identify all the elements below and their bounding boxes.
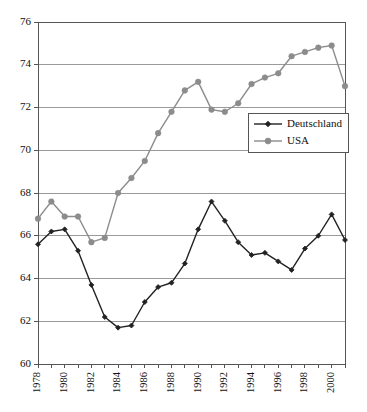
- data-point-marker: [262, 75, 268, 81]
- data-point-marker: [49, 199, 55, 205]
- y-axis-tick-label: 74: [20, 57, 32, 69]
- data-point-marker: [342, 83, 348, 89]
- data-point-marker: [169, 109, 175, 115]
- data-point-marker: [275, 71, 281, 77]
- y-axis-labels: 606264666870727476: [20, 15, 32, 369]
- line-chart: 606264666870727476 197819801982198419861…: [0, 0, 367, 412]
- series-group: [35, 43, 348, 330]
- x-axis-tick-label: 1986: [138, 372, 149, 393]
- data-point-marker: [196, 227, 201, 232]
- y-axis-tick-label: 64: [20, 271, 32, 283]
- y-axis-tick-label: 70: [20, 143, 32, 155]
- series-deutschland: [36, 199, 348, 330]
- x-axis-tick-label: 1984: [111, 371, 122, 393]
- x-axis-tick-label: 2000: [325, 372, 336, 393]
- x-axis-tick-label: 1992: [218, 372, 229, 393]
- data-point-marker: [155, 130, 161, 136]
- gridlines-group: [38, 22, 345, 321]
- data-point-marker: [89, 282, 94, 287]
- data-point-marker: [222, 109, 228, 115]
- data-point-marker: [62, 214, 68, 220]
- chart-legend: DeutschlandUSA: [248, 113, 348, 152]
- y-axis-tick-label: 68: [20, 186, 32, 198]
- x-axis-tick-label: 1980: [58, 372, 69, 393]
- data-point-marker: [89, 239, 95, 245]
- y-axis-tick-label: 62: [20, 314, 31, 326]
- x-axis-tick-label: 1988: [165, 372, 176, 393]
- x-axis-tick-label: 1998: [298, 372, 309, 393]
- data-point-marker: [35, 216, 41, 222]
- data-point-marker: [102, 235, 108, 241]
- data-point-marker: [316, 45, 322, 51]
- x-axis-tick-label: 1982: [85, 372, 96, 393]
- data-point-marker: [115, 190, 121, 196]
- data-point-marker: [182, 88, 188, 94]
- data-point-marker: [129, 175, 135, 181]
- y-axis-tick-label: 60: [20, 357, 32, 369]
- legend-label: Deutschland: [287, 117, 342, 129]
- x-axis-tick-label: 1978: [31, 372, 42, 393]
- y-axis-tick-label: 66: [20, 228, 32, 240]
- series-line: [38, 202, 345, 328]
- data-point-marker: [235, 100, 241, 106]
- data-point-marker: [343, 238, 348, 243]
- data-point-marker: [249, 81, 255, 87]
- x-axis-tick-label: 1994: [245, 371, 256, 393]
- legend-label: USA: [287, 134, 309, 146]
- data-point-marker: [265, 138, 271, 144]
- y-axis-tick-label: 72: [20, 100, 31, 112]
- data-point-marker: [75, 214, 81, 220]
- data-point-marker: [289, 53, 295, 59]
- data-point-marker: [209, 107, 215, 113]
- data-point-marker: [302, 49, 308, 55]
- data-point-marker: [329, 43, 335, 49]
- x-axis-labels: 1978198019821984198619881990199219941996…: [31, 371, 336, 393]
- x-axis-tick-label: 1996: [272, 372, 283, 393]
- y-axis-ticks: [34, 22, 38, 364]
- data-point-marker: [195, 79, 201, 85]
- data-point-marker: [142, 158, 148, 164]
- chart-container: 606264666870727476 197819801982198419861…: [0, 0, 367, 412]
- y-axis-tick-label: 76: [20, 15, 32, 27]
- x-axis-tick-label: 1990: [192, 372, 203, 393]
- x-axis-ticks: [38, 364, 345, 368]
